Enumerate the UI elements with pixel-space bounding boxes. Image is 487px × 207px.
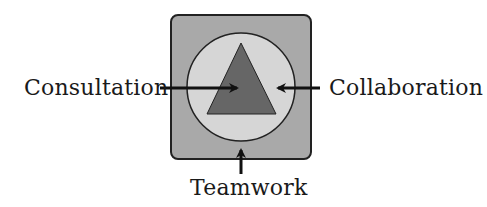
teamwork-diagram: Consultation Collaboration Teamwork: [0, 0, 487, 207]
teamwork-label: Teamwork: [190, 177, 308, 199]
consultation-label: Consultation: [24, 77, 168, 99]
collaboration-label: Collaboration: [329, 77, 483, 99]
